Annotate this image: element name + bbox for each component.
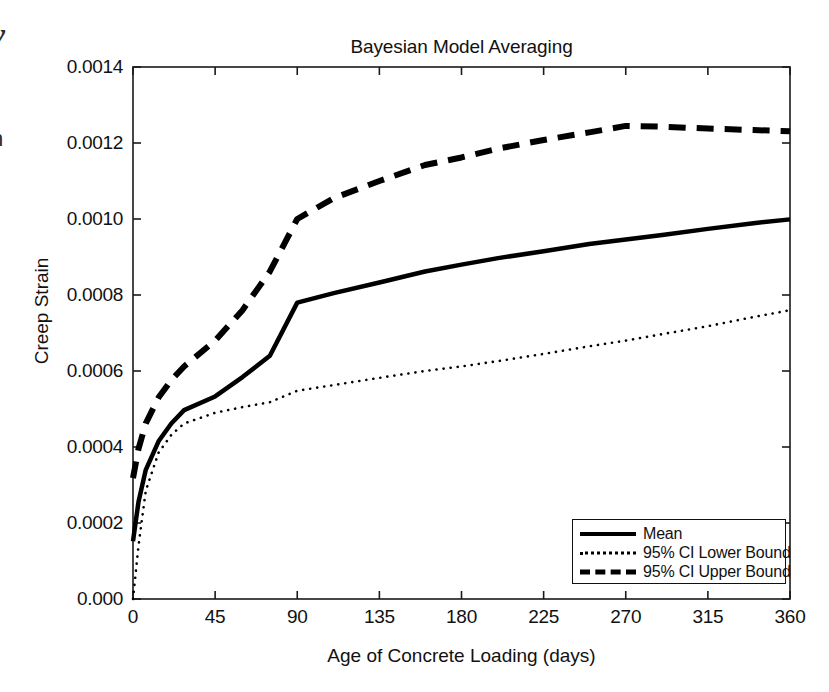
x-tick-label: 45 xyxy=(205,606,226,628)
legend-line-sample-dotted xyxy=(580,547,636,559)
y-tick-label: 0.0010 xyxy=(0,208,123,230)
y-tick-label: 0.0002 xyxy=(0,512,123,534)
legend-item: Mean xyxy=(580,524,785,543)
y-tick-label: 0.0008 xyxy=(0,284,123,306)
y-tick-label: 0.000 xyxy=(0,588,123,610)
x-tick-label: 135 xyxy=(364,606,395,628)
x-tick-label: 360 xyxy=(775,606,806,628)
y-tick-label: 0.0014 xyxy=(0,56,123,78)
x-tick-label: 225 xyxy=(528,606,559,628)
x-tick-label: 0 xyxy=(128,606,138,628)
series-line-0 xyxy=(133,219,790,541)
x-tick-label: 180 xyxy=(446,606,477,628)
series-line-2 xyxy=(133,126,790,478)
y-tick-label: 0.0012 xyxy=(0,132,123,154)
legend-item-label: Mean xyxy=(643,525,682,543)
x-tick-label: 270 xyxy=(610,606,641,628)
y-tick-label: 0.0004 xyxy=(0,436,123,458)
x-tick-label: 315 xyxy=(692,606,723,628)
legend-item-label: 95% CI Lower Bound xyxy=(643,544,791,562)
y-tick-label: 0.0006 xyxy=(0,360,123,382)
legend-item-label: 95% CI Upper Bound xyxy=(643,563,791,581)
legend: Mean95% CI Lower Bound95% CI Upper Bound xyxy=(572,519,786,584)
legend-line-sample-dashed xyxy=(580,566,636,578)
plot-canvas xyxy=(0,0,829,692)
legend-item: 95% CI Lower Bound xyxy=(580,543,785,562)
figure-container: y n Bayesian Model Averaging 0.0000.0002… xyxy=(0,0,829,692)
x-axis-title: Age of Concrete Loading (days) xyxy=(133,645,790,667)
legend-item: 95% CI Upper Bound xyxy=(580,562,785,581)
x-tick-label: 90 xyxy=(287,606,308,628)
y-axis-title: Creep Strain xyxy=(31,211,53,411)
legend-line-sample-solid xyxy=(580,528,636,540)
